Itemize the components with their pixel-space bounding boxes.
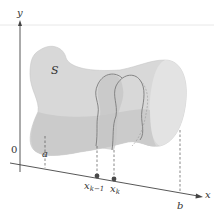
a-label: a [42, 149, 48, 159]
y-axis-label: y [17, 8, 23, 18]
origin-label: 0 [11, 145, 17, 155]
xk-sub: k [116, 188, 120, 196]
xk-minus-1-sub: k−1 [90, 185, 105, 193]
x-axis-arrow-icon [196, 194, 204, 199]
point-xk-minus-1 [95, 174, 100, 179]
y-axis-arrow-icon [18, 20, 22, 26]
xk-label: xk [110, 184, 120, 196]
x-axis-label: x [205, 190, 211, 200]
solid-label: S [51, 65, 59, 76]
point-xk [112, 177, 117, 182]
b-label: b [177, 201, 183, 211]
diagram-canvas [0, 0, 214, 211]
solid-slice-diagram: y x 0 S a b xk−1 xk [0, 0, 214, 211]
xk-minus-1-label: xk−1 [84, 181, 104, 193]
